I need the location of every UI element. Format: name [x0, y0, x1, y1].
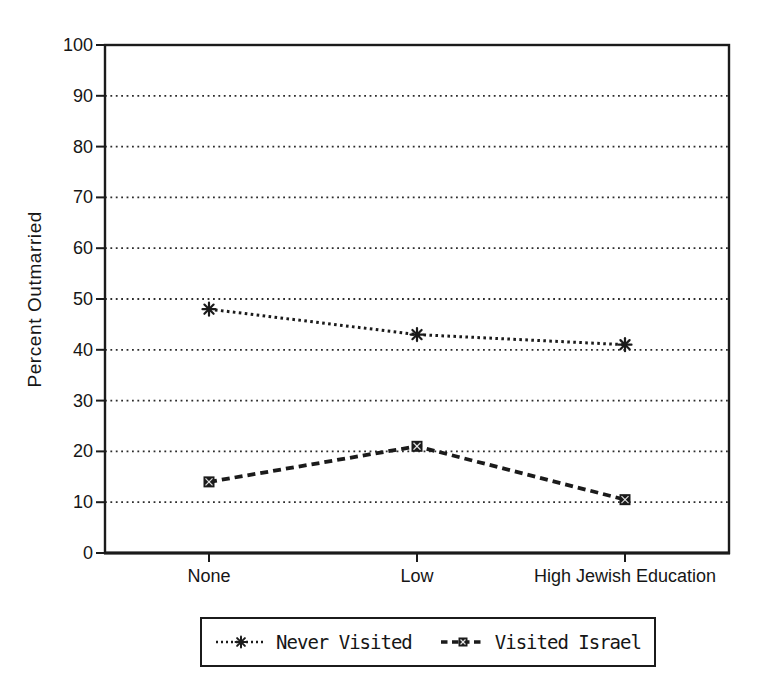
legend-item-0: Never Visited [215, 631, 412, 653]
asterisk-marker [619, 338, 632, 351]
square-x-marker [620, 494, 631, 505]
x-tick-label-1: Low [400, 566, 434, 586]
legend-sample-dotted [215, 633, 267, 651]
legend-item-1: Visited Israel [440, 631, 641, 653]
outmarriage-by-jewish-education-chart: 0102030405060708090100NoneLowHigh Jewish… [0, 0, 764, 696]
y-tick-label-30: 30 [73, 391, 93, 411]
chart-legend: Never VisitedVisited Israel [200, 617, 656, 667]
asterisk-marker [411, 328, 424, 341]
y-tick-label-90: 90 [73, 86, 93, 106]
y-tick-label-10: 10 [73, 492, 93, 512]
y-tick-label-50: 50 [73, 289, 93, 309]
square-x-marker [204, 476, 215, 487]
y-tick-label-20: 20 [73, 441, 93, 461]
y-tick-label-0: 0 [83, 543, 93, 563]
legend-sample-dashed [440, 633, 486, 651]
series-line-1 [209, 446, 625, 499]
y-tick-label-80: 80 [73, 137, 93, 157]
legend-label-1: Visited Israel [495, 631, 641, 653]
square-x-marker [412, 441, 423, 452]
legend-label-0: Never Visited [276, 631, 412, 653]
y-axis-title: Percent Outmarried [18, 45, 52, 553]
square-x-marker [458, 638, 467, 647]
asterisk-marker [236, 637, 247, 648]
chart-plot-area: 0102030405060708090100NoneLowHigh Jewish… [0, 0, 764, 610]
y-tick-label-70: 70 [73, 187, 93, 207]
y-tick-label-100: 100 [63, 35, 93, 55]
x-tick-label-2: High Jewish Education [534, 566, 716, 586]
x-tick-label-0: None [187, 566, 230, 586]
y-axis-title-text: Percent Outmarried [24, 211, 46, 388]
y-tick-label-60: 60 [73, 238, 93, 258]
asterisk-marker [203, 303, 216, 316]
y-tick-label-40: 40 [73, 340, 93, 360]
